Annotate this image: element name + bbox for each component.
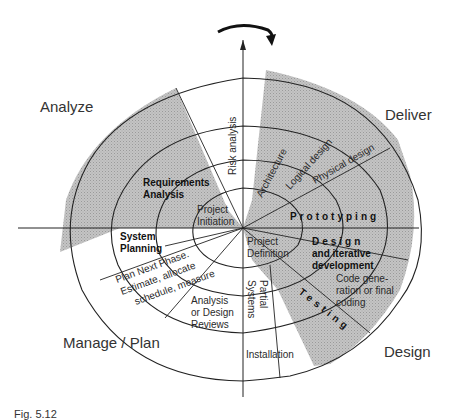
figure-caption: Fig. 5.12 [14, 408, 57, 420]
label-project-definition: Project [247, 236, 278, 247]
quadrant-manage-plan: Manage / Plan [63, 334, 160, 351]
label-installation: Installation [246, 349, 294, 360]
quadrant-design: Design [384, 343, 431, 360]
phase-system-planning: System [120, 231, 156, 242]
phase-system-planning-2: Planning [120, 243, 162, 254]
phase-design: Design [312, 236, 363, 247]
label-risk-analysis: Risk analysis [227, 117, 238, 175]
vertical-axis-arrowhead [240, 40, 246, 50]
quadrant-analyze: Analyze [40, 98, 93, 115]
label-code-generation-2: ration or final [336, 285, 394, 296]
phase-requirements: Requirements [143, 177, 210, 188]
label-project-initiation: Project [197, 204, 228, 215]
phase-design-3: development [312, 260, 374, 271]
label-project-definition-2: Definition [247, 248, 289, 259]
label-partial-systems: Partial [258, 280, 269, 308]
quadrant-deliver: Deliver [385, 106, 432, 123]
label-code-generation-3: coding [336, 297, 365, 308]
label-analysis-reviews-2: or Design [191, 307, 234, 318]
phase-prototyping: Prototyping [290, 211, 379, 222]
label-analysis-reviews-3: Reviews [191, 319, 229, 330]
label-partial-systems-2: Systems [246, 280, 257, 318]
phase-design-2: and iterative [312, 248, 371, 259]
phase-requirements-2: Analysis [143, 189, 185, 200]
label-code-generation: Code gene- [336, 273, 388, 284]
label-analysis-reviews: Analysis [191, 295, 228, 306]
label-project-initiation-2: Initiation [197, 216, 234, 227]
rotation-arrow-icon [218, 25, 276, 46]
